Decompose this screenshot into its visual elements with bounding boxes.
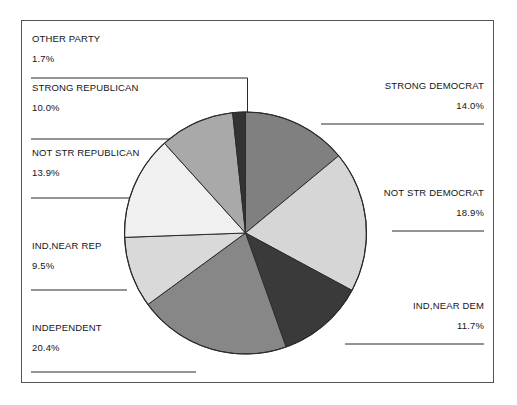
slice-label-independent-name: INDEPENDENT [32,322,102,333]
slice-label-not-str-republican-value: 13.9% [32,167,140,178]
slice-label-other-party-value: 1.7% [32,53,100,64]
slice-label-not-str-republican-name: NOT STR REPUBLICAN [32,147,140,158]
slice-label-not-str-democrat: NOT STR DEMOCRAT 18.9% [384,187,484,218]
pie-chart-figure: STRONG DEMOCRAT 14.0%NOT STR DEMOCRAT 18… [0,0,517,405]
slice-label-ind-near-rep-value: 9.5% [32,260,101,271]
slice-label-other-party: OTHER PARTY 1.7% [32,33,100,64]
slice-label-strong-republican: STRONG REPUBLICAN 10.0% [32,82,139,113]
slice-label-not-str-republican: NOT STR REPUBLICAN 13.9% [32,147,140,178]
slice-label-ind-near-dem-name: IND,NEAR DEM [413,300,484,311]
slice-label-ind-near-rep: IND,NEAR REP 9.5% [32,240,101,271]
slice-label-strong-republican-value: 10.0% [32,102,139,113]
slice-label-independent: INDEPENDENT 20.4% [32,322,102,353]
slice-label-not-str-democrat-name: NOT STR DEMOCRAT [384,187,484,198]
slice-label-strong-democrat: STRONG DEMOCRAT 14.0% [385,80,484,111]
slice-label-strong-democrat-name: STRONG DEMOCRAT [385,80,484,91]
slice-label-ind-near-dem: IND,NEAR DEM 11.7% [413,300,484,331]
slice-label-ind-near-dem-value: 11.7% [413,320,484,331]
pie-slices-group: STRONG DEMOCRAT 14.0%NOT STR DEMOCRAT 18… [125,112,367,354]
slice-label-other-party-name: OTHER PARTY [32,33,100,44]
slice-label-strong-republican-name: STRONG REPUBLICAN [32,82,139,93]
slice-label-strong-democrat-value: 14.0% [385,100,484,111]
slice-label-ind-near-rep-name: IND,NEAR REP [32,240,101,251]
slice-label-not-str-democrat-value: 18.9% [384,207,484,218]
slice-label-independent-value: 20.4% [32,342,102,353]
